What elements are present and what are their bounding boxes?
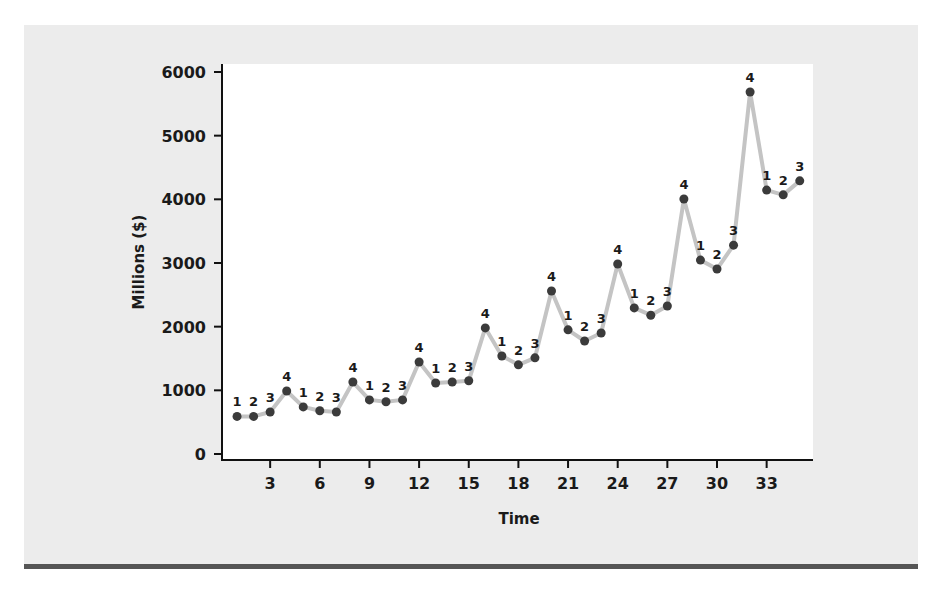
- x-tick-label: 24: [607, 474, 629, 493]
- data-point: [348, 378, 357, 387]
- y-tick-label: 1000: [161, 381, 206, 400]
- data-point: [762, 186, 771, 195]
- quarter-label: 1: [431, 361, 440, 376]
- data-point: [679, 195, 688, 204]
- data-point: [233, 412, 242, 421]
- data-point: [332, 407, 341, 416]
- data-point: [547, 287, 556, 296]
- quarter-label: 4: [481, 306, 490, 321]
- quarter-label: 4: [348, 360, 357, 375]
- x-tick-label: 30: [706, 474, 728, 493]
- data-point: [431, 379, 440, 388]
- quarter-label: 2: [514, 343, 523, 358]
- x-axis-title: Time: [498, 510, 539, 528]
- y-tick-label: 4000: [161, 190, 206, 209]
- x-tick-label: 15: [458, 474, 480, 493]
- quarter-label: 3: [729, 223, 738, 238]
- data-point: [564, 325, 573, 334]
- y-axis-title: Millions ($): [130, 215, 148, 310]
- data-point: [630, 303, 639, 312]
- data-point: [514, 360, 523, 369]
- x-tick-label: 18: [507, 474, 529, 493]
- x-tick-label: 6: [314, 474, 325, 493]
- data-point: [746, 88, 755, 97]
- data-point: [448, 378, 457, 387]
- quarter-label: 1: [233, 394, 242, 409]
- quarter-label: 4: [282, 369, 291, 384]
- data-point: [713, 265, 722, 274]
- line-chart: 0100020003000400050006000369121518212427…: [0, 0, 938, 596]
- data-point: [249, 412, 258, 421]
- quarter-label: 3: [398, 378, 407, 393]
- data-point: [464, 376, 473, 385]
- quarter-label: 3: [663, 284, 672, 299]
- data-point: [415, 357, 424, 366]
- quarter-label: 1: [299, 385, 308, 400]
- y-tick-label: 0: [195, 445, 206, 464]
- data-point: [597, 329, 606, 338]
- plot-area: [222, 64, 813, 460]
- quarter-label: 2: [646, 293, 655, 308]
- quarter-label: 4: [613, 242, 622, 257]
- quarter-label: 1: [564, 308, 573, 323]
- x-tick-label: 21: [557, 474, 579, 493]
- data-point: [696, 256, 705, 265]
- data-point: [398, 395, 407, 404]
- y-tick-label: 2000: [161, 318, 206, 337]
- data-point: [282, 386, 291, 395]
- data-point: [382, 397, 391, 406]
- quarter-label: 2: [249, 394, 258, 409]
- data-point: [315, 406, 324, 415]
- quarter-label: 4: [746, 70, 755, 85]
- x-tick-label: 27: [656, 474, 678, 493]
- data-point: [795, 176, 804, 185]
- quarter-label: 1: [497, 334, 506, 349]
- data-point: [663, 301, 672, 310]
- data-point: [729, 241, 738, 250]
- quarter-label: 2: [779, 173, 788, 188]
- quarter-label: 2: [381, 380, 390, 395]
- data-point: [266, 407, 275, 416]
- quarter-label: 1: [762, 168, 771, 183]
- quarter-label: 2: [712, 247, 721, 262]
- data-point: [580, 336, 589, 345]
- quarter-label: 3: [266, 390, 275, 405]
- quarter-label: 4: [547, 269, 556, 284]
- data-point: [365, 395, 374, 404]
- quarter-label: 2: [315, 389, 324, 404]
- quarter-label: 3: [597, 311, 606, 326]
- quarter-label: 1: [696, 238, 705, 253]
- data-point: [530, 353, 539, 362]
- data-point: [299, 402, 308, 411]
- quarter-label: 1: [630, 286, 639, 301]
- data-point: [646, 311, 655, 320]
- quarter-label: 3: [795, 159, 804, 174]
- data-point: [613, 259, 622, 268]
- x-tick-label: 33: [756, 474, 778, 493]
- quarter-label: 3: [464, 359, 473, 374]
- data-point: [481, 323, 490, 332]
- data-point: [779, 190, 788, 199]
- y-tick-label: 5000: [161, 127, 206, 146]
- data-point: [497, 351, 506, 360]
- quarter-label: 2: [580, 319, 589, 334]
- x-tick-label: 12: [408, 474, 430, 493]
- x-tick-label: 3: [265, 474, 276, 493]
- quarter-label: 3: [530, 336, 539, 351]
- quarter-label: 1: [365, 378, 374, 393]
- quarter-label: 2: [448, 360, 457, 375]
- x-tick-label: 9: [364, 474, 375, 493]
- y-tick-label: 6000: [161, 63, 206, 82]
- quarter-label: 3: [332, 390, 341, 405]
- quarter-label: 4: [415, 340, 424, 355]
- quarter-label: 4: [679, 177, 688, 192]
- y-tick-label: 3000: [161, 254, 206, 273]
